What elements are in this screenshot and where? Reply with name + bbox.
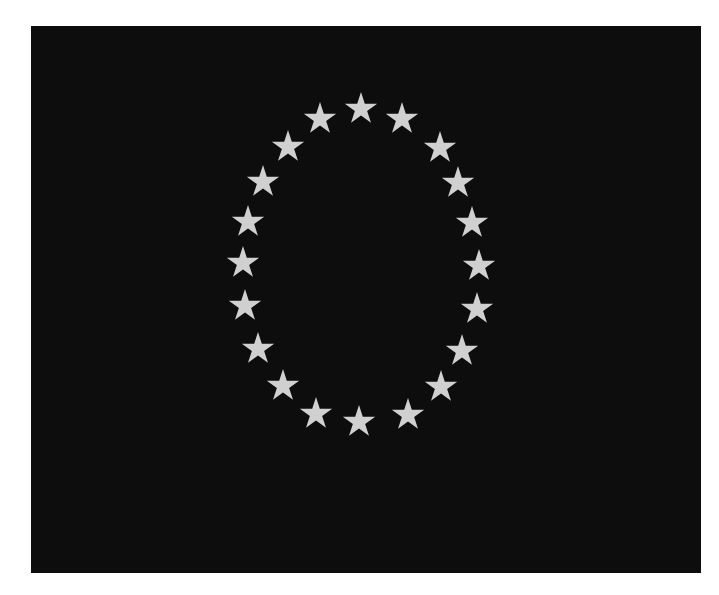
star-icon xyxy=(425,370,457,401)
star-icon xyxy=(442,166,474,197)
star-icon xyxy=(300,397,332,428)
star-icon xyxy=(446,334,478,365)
star-icon xyxy=(267,369,299,400)
image-canvas xyxy=(0,0,719,595)
star-icon xyxy=(247,165,279,196)
star-icon xyxy=(229,289,261,320)
star-icon xyxy=(456,206,488,237)
star-ring xyxy=(0,0,719,595)
star-icon xyxy=(304,102,336,133)
star-icon xyxy=(272,130,304,161)
star-icon xyxy=(392,398,424,429)
star-icon xyxy=(242,332,274,363)
star-icon xyxy=(345,92,377,123)
star-icon xyxy=(227,246,259,277)
star-icon xyxy=(232,205,264,236)
star-icon xyxy=(386,102,418,133)
star-icon xyxy=(424,131,456,162)
star-icon xyxy=(343,405,375,436)
star-icon xyxy=(461,292,493,323)
star-icon xyxy=(463,249,495,280)
